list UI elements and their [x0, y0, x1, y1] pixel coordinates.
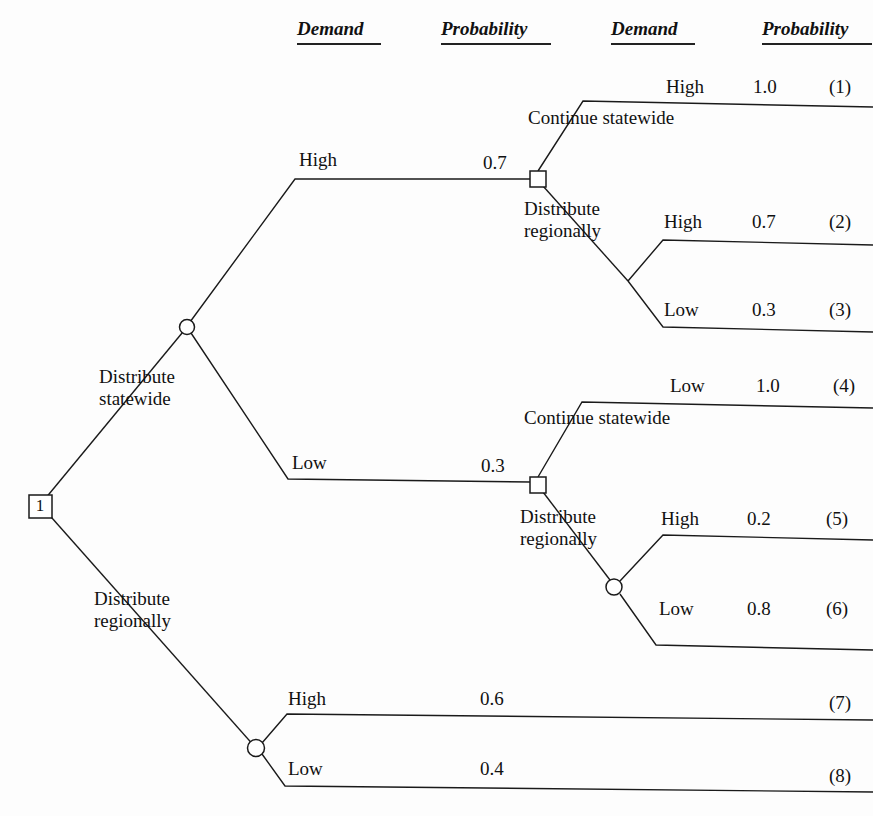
column-header-label: Demand: [297, 18, 364, 39]
column-header-demand-1: Demand: [297, 18, 381, 45]
header-underline: [441, 43, 551, 45]
edge-group: [40, 101, 873, 792]
stage1-low-demand: Low: [292, 452, 327, 473]
chance-node-chance-root-regional: [248, 740, 265, 757]
label-distribute-regionally-high: Distribute regionally: [524, 198, 601, 243]
tree-edge-statewide-high: [190, 179, 530, 322]
outcome-4-tag: (4): [833, 375, 855, 397]
label-distribute-regionally-low: Distribute regionally: [520, 506, 597, 551]
outcome-3-tag: (3): [829, 299, 851, 321]
chance-node-chance-statewide: [180, 320, 195, 335]
root-node-label: 1: [29, 496, 51, 516]
outcome-4-probability: 1.0: [756, 375, 780, 397]
tree-edge-d1-regional-high: [628, 240, 873, 281]
column-header-probability-2: Probability: [762, 18, 872, 45]
column-header-probability-1: Probability: [441, 18, 551, 45]
stage1-low-probability: 0.3: [481, 455, 505, 477]
outcome-7-probability: 0.6: [480, 688, 504, 710]
outcome-8-demand: Low: [288, 758, 323, 779]
outcome-2-probability: 0.7: [752, 211, 776, 233]
outcome-8-tag: (8): [829, 765, 851, 787]
column-header-label: Demand: [611, 18, 678, 39]
outcome-7-demand: High: [288, 688, 326, 709]
outcome-2-tag: (2): [829, 211, 851, 233]
label-continue-statewide-high: Continue statewide: [528, 107, 674, 128]
decision-tree-figure: Demand Probability Demand Probability 1 …: [0, 0, 873, 816]
label-continue-statewide-low: Continue statewide: [524, 407, 670, 428]
outcome-5-demand: High: [661, 508, 699, 529]
decision-node-decision-high: [530, 171, 546, 187]
tree-edge-root-regional-low: [262, 754, 873, 792]
column-header-demand-2: Demand: [611, 18, 695, 45]
outcome-6-tag: (6): [826, 598, 848, 620]
label-distribute-statewide: Distribute statewide: [99, 366, 175, 411]
column-header-label: Probability: [441, 18, 528, 39]
outcome-4-demand: Low: [670, 375, 705, 396]
outcome-1-probability: 1.0: [753, 76, 777, 98]
chance-node-chance-low-regional: [606, 579, 622, 595]
outcome-3-demand: Low: [664, 299, 699, 320]
column-header-label: Probability: [762, 18, 849, 39]
header-underline: [611, 43, 695, 45]
tree-edge-statewide-low: [191, 333, 530, 482]
outcome-5-probability: 0.2: [747, 508, 771, 530]
outcome-3-probability: 0.3: [752, 299, 776, 321]
stage1-high-demand: High: [299, 149, 337, 170]
decision-node-decision-low: [530, 477, 546, 493]
outcome-6-probability: 0.8: [747, 598, 771, 620]
header-underline: [297, 43, 381, 45]
outcome-5-tag: (5): [826, 508, 848, 530]
outcome-2-demand: High: [664, 211, 702, 232]
outcome-6-demand: Low: [659, 598, 694, 619]
label-distribute-regionally-root: Distribute regionally: [94, 588, 171, 633]
tree-edge-root-regional-high: [262, 714, 873, 743]
outcome-1-demand: High: [666, 76, 704, 97]
outcome-1-tag: (1): [829, 76, 851, 98]
tree-edge-d2-regional-high: [620, 535, 873, 581]
header-underline: [762, 43, 872, 45]
tree-edge-root-to-statewide: [40, 327, 187, 505]
stage1-high-probability: 0.7: [483, 152, 507, 174]
outcome-8-probability: 0.4: [480, 758, 504, 780]
outcome-7-tag: (7): [829, 692, 851, 714]
